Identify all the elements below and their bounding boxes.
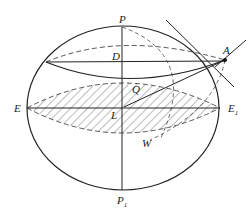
label-Q: Q (132, 83, 140, 95)
label-E: E (13, 102, 21, 114)
point-A (223, 58, 227, 62)
diagram-stage: P P1 E E1 A D Q L W (0, 0, 252, 220)
chord-D-A (46, 61, 225, 62)
parallel-circle-back-dashed (46, 45, 225, 62)
label-W: W (142, 137, 152, 149)
label-P1: P1 (116, 194, 127, 209)
label-D: D (111, 50, 120, 62)
label-P: P (118, 13, 126, 25)
label-L: L (110, 109, 117, 121)
tangent-line-2 (215, 40, 246, 67)
sphere-diagram: P P1 E E1 A D Q L W (0, 0, 252, 220)
parallel-circle-front (46, 60, 225, 79)
label-A: A (222, 44, 230, 56)
label-E1: E1 (227, 102, 238, 117)
